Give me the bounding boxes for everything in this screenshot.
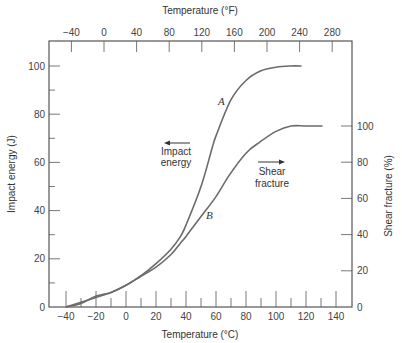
impact-energy-label-line1: Impact — [161, 146, 191, 157]
x-axis-title: Temperature (°C) — [162, 329, 239, 340]
x2-tick-label: 40 — [131, 27, 143, 38]
x2-axis-title: Temperature (°F) — [162, 5, 238, 16]
x2-tick-label: 280 — [324, 27, 341, 38]
x-tick-label: 140 — [328, 311, 345, 322]
impact-energy-label-line2: energy — [161, 157, 192, 168]
plot-frame — [49, 41, 352, 307]
x2-tick-label: 0 — [101, 27, 107, 38]
x-tick-label: −20 — [88, 311, 105, 322]
x2-tick-label: −40 — [63, 27, 80, 38]
x2-tick-label: 120 — [193, 27, 210, 38]
x-tick-label: 0 — [123, 311, 129, 322]
y2-tick-label: 100 — [357, 121, 374, 132]
curve-b — [66, 126, 323, 307]
x2-tick-label: 160 — [226, 27, 243, 38]
y-tick-label: 40 — [34, 205, 46, 216]
y2-tick-label: 40 — [357, 229, 369, 240]
x2-axis-ticks: −4004080120160200240280 — [63, 27, 341, 52]
x-tick-label: −40 — [58, 311, 75, 322]
shear-fracture-label-line1: Shear — [259, 166, 286, 177]
y2-tick-label: 80 — [357, 157, 369, 168]
x2-tick-label: 240 — [291, 27, 308, 38]
curve-b-label: B — [206, 209, 213, 221]
y2-tick-label: 20 — [357, 265, 369, 276]
left-arrowhead-icon — [164, 141, 170, 146]
x-tick-label: 80 — [240, 311, 252, 322]
y-tick-label: 20 — [34, 253, 46, 264]
right-arrowhead-icon — [279, 160, 285, 165]
y-tick-label: 100 — [28, 61, 45, 72]
chart: −40−20020406080100120140 −40040801201602… — [0, 0, 402, 343]
x-tick-label: 40 — [180, 311, 192, 322]
shear-fracture-label-line2: fracture — [255, 178, 289, 189]
y-axis-ticks: 020406080100 — [28, 61, 60, 313]
x-tick-label: 20 — [150, 311, 162, 322]
curve-a-label: A — [217, 95, 225, 107]
y2-axis-title: Shear fracture (%) — [383, 155, 394, 237]
y-axis-title: Impact energy (J) — [6, 135, 17, 213]
y2-tick-label: 60 — [357, 193, 369, 204]
y2-tick-label: 0 — [357, 302, 363, 313]
x-tick-label: 100 — [268, 311, 285, 322]
x-tick-label: 60 — [210, 311, 222, 322]
x2-tick-label: 80 — [164, 27, 176, 38]
shear-fracture-annotation: Shear fracture — [255, 160, 289, 190]
y-tick-label: 60 — [34, 157, 46, 168]
x-tick-label: 120 — [298, 311, 315, 322]
x2-tick-label: 200 — [259, 27, 276, 38]
y-tick-label: 0 — [39, 302, 45, 313]
impact-energy-annotation: Impact energy — [161, 141, 192, 169]
y2-axis-ticks: 020406080100 — [341, 121, 374, 313]
y-tick-label: 80 — [34, 109, 46, 120]
